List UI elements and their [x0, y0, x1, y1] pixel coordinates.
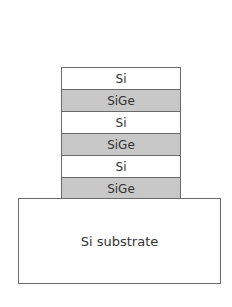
si-substrate: Si substrate	[18, 198, 221, 284]
layer-sige-1: SiGe	[61, 89, 181, 111]
substrate-label: Si substrate	[81, 234, 159, 249]
layer-si-3: Si	[61, 155, 181, 177]
layer-sige-2: SiGe	[61, 133, 181, 155]
layer-si-2: Si	[61, 111, 181, 133]
superlattice-stack: Si SiGe Si SiGe Si SiGe	[61, 67, 181, 199]
layer-si-1: Si	[61, 67, 181, 89]
layer-sige-3: SiGe	[61, 177, 181, 199]
